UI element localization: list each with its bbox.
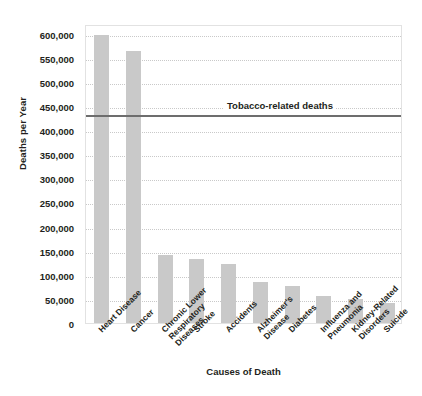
- y-tick-label: 600,000: [0, 29, 74, 40]
- y-tick-label: 350,000: [0, 150, 74, 161]
- bars-series: [86, 26, 401, 323]
- y-tick-label: 200,000: [0, 222, 74, 233]
- y-tick-label: 450,000: [0, 101, 74, 112]
- y-tick-label: 550,000: [0, 53, 74, 64]
- bar-chart-figure: Deaths per Year 050,000100,000150,000200…: [0, 0, 422, 396]
- y-tick-label: 150,000: [0, 246, 74, 257]
- y-tick-label: 100,000: [0, 270, 74, 281]
- x-axis-title: Causes of Death: [85, 366, 402, 377]
- bar: [221, 264, 236, 323]
- y-tick-label: 500,000: [0, 77, 74, 88]
- bar: [158, 255, 173, 323]
- y-axis-tick-labels: 050,000100,000150,000200,000250,000300,0…: [0, 0, 80, 396]
- bar: [126, 51, 141, 323]
- bar: [94, 35, 109, 323]
- tobacco-reference-line-label: Tobacco-related deaths: [224, 100, 336, 111]
- y-tick-label: 300,000: [0, 174, 74, 185]
- x-axis-tick-labels: Heart DiseaseCancerChronic LowerRespirat…: [85, 324, 402, 388]
- y-tick-label: 250,000: [0, 198, 74, 209]
- y-tick-label: 400,000: [0, 126, 74, 137]
- y-tick-label: 0: [0, 319, 74, 330]
- y-tick-label: 50,000: [0, 294, 74, 305]
- tobacco-reference-line: [86, 115, 401, 117]
- plot-area: Tobacco-related deaths: [85, 25, 402, 324]
